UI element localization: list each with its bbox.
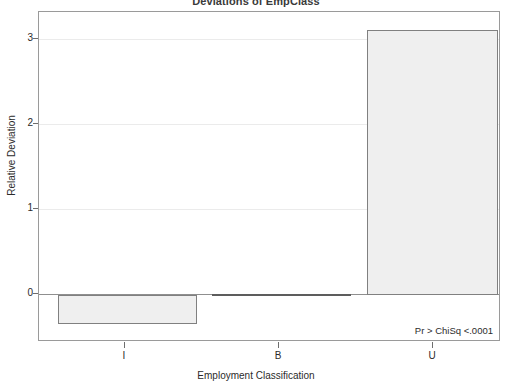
y-axis-title: Relative Deviation	[6, 86, 17, 226]
ytick-3: 3	[0, 33, 33, 43]
pvalue-annotation: Pr > ChiSq <.0001	[415, 325, 493, 336]
xtick-mark-I	[124, 342, 125, 348]
xtick-label-B: B	[258, 350, 298, 361]
bar-I[interactable]	[58, 295, 197, 324]
xtick-label-I: I	[104, 350, 144, 361]
ytick-mark-3	[33, 38, 38, 39]
chart-screenshot: Deviations of EmpClass Pr > ChiSq <.0001…	[0, 0, 512, 392]
ytick-0: 0	[0, 288, 33, 298]
xtick-mark-U	[432, 342, 433, 348]
bar-B[interactable]	[212, 294, 351, 296]
plot-area: Pr > ChiSq <.0001	[38, 11, 500, 341]
ytick-mark-2	[33, 123, 38, 124]
ytick-label-0: 0	[7, 288, 33, 298]
ytick-mark-0	[33, 293, 38, 294]
ytick-label-3: 3	[7, 33, 33, 43]
x-axis-title: Employment Classification	[0, 370, 512, 381]
xtick-label-U: U	[412, 350, 452, 361]
ytick-mark-1	[33, 208, 38, 209]
bar-U[interactable]	[367, 30, 498, 295]
xtick-mark-B	[278, 342, 279, 348]
chart-title: Deviations of EmpClass	[0, 0, 512, 7]
